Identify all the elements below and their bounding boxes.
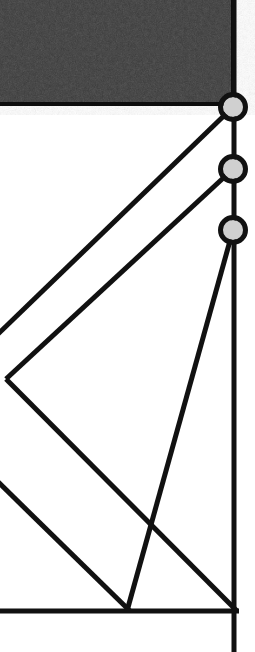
- lower-joint-node[interactable]: [221, 218, 246, 243]
- drawing-canvas: [0, 0, 255, 652]
- middle-joint-core: [223, 159, 243, 179]
- top-joint-core: [223, 97, 243, 117]
- middle-joint-node[interactable]: [221, 157, 246, 182]
- lower-joint-core: [223, 220, 243, 240]
- truss-diagram: [0, 0, 255, 652]
- truss-nodes: [221, 95, 246, 243]
- top-joint-node[interactable]: [221, 95, 246, 120]
- shaded-panel-group: [0, 0, 233, 104]
